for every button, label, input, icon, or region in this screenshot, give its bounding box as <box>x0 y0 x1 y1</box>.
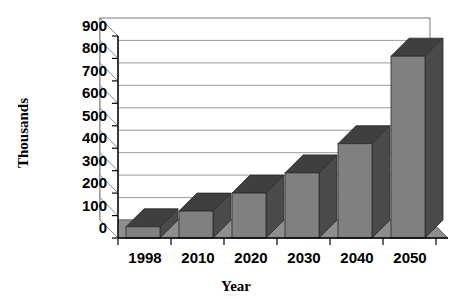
bar-front-face <box>232 193 266 238</box>
bar-side-face <box>372 126 390 238</box>
y-tick-label: 0 <box>99 219 107 236</box>
y-tick-label: 800 <box>82 39 107 56</box>
y-tick-label: 500 <box>82 107 107 124</box>
x-tick-label: 1998 <box>128 249 161 266</box>
x-tick-label: 2040 <box>340 249 373 266</box>
y-tick-label: 600 <box>82 84 107 101</box>
x-tick-label: 2020 <box>234 249 267 266</box>
chart-canvas: 900 800 700 600 500 400 300 200 100 0 <box>0 0 468 299</box>
x-axis-title: Year <box>221 278 251 294</box>
bar-2030[interactable] <box>285 155 337 238</box>
y-tick-label: 100 <box>82 197 107 214</box>
bar-front-face <box>179 211 213 238</box>
bar-front-face <box>126 227 160 238</box>
y-tick-label: 200 <box>82 174 107 191</box>
bar-2040[interactable] <box>338 126 390 238</box>
bar-2050[interactable] <box>391 38 443 238</box>
x-tick-label: 2010 <box>181 249 214 266</box>
y-axis-title: Thousands <box>15 98 31 168</box>
x-tick-label: 2050 <box>393 249 426 266</box>
bar-front-face <box>391 56 425 238</box>
bar-front-face <box>338 144 372 238</box>
y-tick-label: 400 <box>82 129 107 146</box>
bar-front-face <box>285 173 319 238</box>
bar-side-face <box>425 38 443 238</box>
x-tick-label: 2030 <box>287 249 320 266</box>
y-tick-label: 300 <box>82 152 107 169</box>
y-tick-label: 700 <box>82 62 107 79</box>
bar-chart: 900 800 700 600 500 400 300 200 100 0 <box>0 0 468 299</box>
y-tick-label: 900 <box>82 17 107 34</box>
